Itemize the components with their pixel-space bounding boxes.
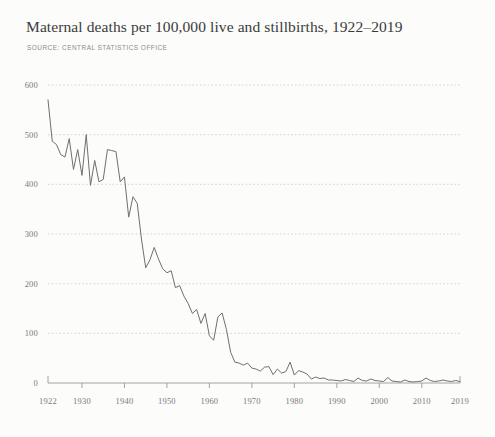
y-tick-label: 100 (25, 328, 38, 338)
x-tick-label: 1980 (285, 396, 303, 406)
y-axis-labels-group: 0100200300400500600 (25, 80, 38, 388)
y-tick-label: 200 (25, 279, 38, 289)
x-axis-labels-group: 1922193019401950196019701980199020002010… (39, 396, 469, 406)
y-tick-label: 400 (25, 179, 38, 189)
x-tick-label: 1922 (39, 396, 57, 406)
x-tick-label: 1930 (73, 396, 91, 406)
y-tick-label: 300 (25, 229, 38, 239)
x-tick-label: 2019 (451, 396, 469, 406)
line-chart-svg: 0100200300400500600 19221930194019501960… (0, 0, 495, 437)
chart-page: Maternal deaths per 100,000 live and sti… (0, 0, 495, 437)
x-tick-label: 1940 (116, 396, 134, 406)
x-tick-label: 1990 (328, 396, 346, 406)
x-tick-label: 2010 (413, 396, 431, 406)
y-tick-label: 500 (25, 130, 38, 140)
x-tick-label: 2000 (370, 396, 388, 406)
y-tick-label: 0 (34, 378, 38, 388)
gridlines-group (48, 85, 460, 333)
x-tick-label: 1970 (243, 396, 261, 406)
y-tick-label: 600 (25, 80, 38, 90)
x-tick-label: 1960 (200, 396, 218, 406)
x-tick-label: 1950 (158, 396, 176, 406)
plot-area: 0100200300400500600 19221930194019501960… (0, 0, 495, 437)
chart-card: Maternal deaths per 100,000 live and sti… (0, 0, 495, 437)
series-line-maternal-deaths (48, 100, 460, 382)
